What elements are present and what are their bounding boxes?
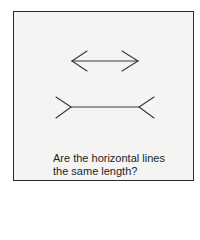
caption-line-2: the same length? — [53, 165, 165, 178]
caption-line-1: Are the horizontal lines — [53, 152, 165, 165]
arrow-outward-fins — [56, 97, 154, 118]
caption: Are the horizontal lines the same length… — [53, 152, 165, 178]
arrow-inward-fins — [72, 51, 138, 71]
